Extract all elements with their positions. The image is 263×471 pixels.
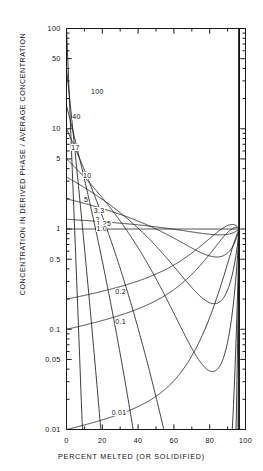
y-tick-label: 0.05 [45,355,60,364]
y-tick-label: 0.1 [50,325,61,334]
x-tick-label: 40 [124,436,152,445]
curve-label-5: 5 [84,196,89,203]
curve-k-5 [67,29,240,372]
curve-label-100: 100 [91,88,104,95]
y-tick-label: 5 [56,154,60,163]
y-tick-label: 0.5 [50,255,61,264]
y-tick-label: 0.01 [45,425,60,434]
curve-label-0.2: 0.2 [115,288,126,295]
curve-label-10: 10 [83,172,92,179]
curve-k-3.3 [67,29,240,304]
plot-canvas [0,0,263,471]
y-tick-label: 100 [48,24,61,33]
x-tick-label: 100 [232,436,260,445]
x-tick-label: 0 [53,436,81,445]
curve-label-17: 17 [71,144,80,151]
curve-label-0.01: 0.01 [111,409,127,416]
y-tick-label: 50 [52,54,61,63]
x-tick-label: 80 [196,436,224,445]
curve-label-0.1: 0.1 [115,318,126,325]
x-tick-label: 20 [88,436,116,445]
curve-k-0.1 [67,227,240,429]
curve-k-2 [67,29,240,258]
curve-k-1.25 [67,29,240,235]
curve-label-40: 40 [72,113,81,120]
y-tick-label: 1 [56,224,60,233]
y-tick-label: 10 [52,124,61,133]
curve-label-1.0: 1.0 [96,225,107,232]
chart-figure: CONCENTRATION IN DERIVED PHASE / AVERAGE… [0,0,263,471]
curve-label-3.3: 3.3 [93,207,104,214]
x-tick-label: 60 [160,436,188,445]
